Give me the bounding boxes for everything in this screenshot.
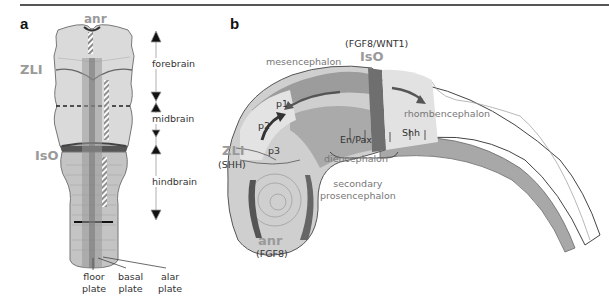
rhombencephalon-label: rhombencephalon bbox=[404, 108, 490, 119]
en-pax-marker-label: En/Pax bbox=[340, 134, 372, 145]
diencephalon-label: diencephalon bbox=[324, 153, 388, 164]
neural-tube-dorsal-view bbox=[54, 25, 166, 270]
iso-label-a: IsO bbox=[35, 148, 59, 163]
anr-label-a: anr bbox=[84, 12, 107, 26]
prosomere-p3: p3 bbox=[268, 145, 280, 156]
hindbrain-label: hindbrain bbox=[152, 176, 197, 187]
alar-plate-line1: alar bbox=[158, 271, 182, 283]
shh-marker-label: Shh bbox=[402, 127, 420, 138]
anr-genes-label: (FGF8) bbox=[256, 248, 288, 259]
prosomere-p1: p1 bbox=[276, 98, 288, 109]
basal-plate-label: basal plate bbox=[118, 271, 143, 295]
embryonic-brain-sagittal bbox=[228, 66, 600, 255]
midbrain-label: midbrain bbox=[152, 113, 194, 124]
zli-label-b: ZLI bbox=[222, 143, 245, 158]
forebrain-label: forebrain bbox=[152, 58, 195, 69]
anr-label-b: anr bbox=[258, 233, 282, 248]
floor-plate-label: floor plate bbox=[82, 271, 106, 295]
zli-genes-label: (SHH) bbox=[218, 159, 246, 170]
prosomere-p2: p2 bbox=[258, 120, 270, 131]
floor-plate-line2: plate bbox=[82, 283, 106, 295]
zli-label-a: ZLI bbox=[20, 62, 43, 77]
secondary-line2: prosencephalon bbox=[320, 190, 396, 202]
neural-tube-diagram bbox=[0, 0, 609, 297]
panel-b-letter: b bbox=[230, 15, 239, 32]
mesencephalon-label: mesencephalon bbox=[266, 56, 341, 67]
basal-plate-line1: basal bbox=[118, 271, 143, 283]
floor-plate-line1: floor bbox=[82, 271, 106, 283]
alar-plate-line2: plate bbox=[158, 283, 182, 295]
iso-genes-label: (FGF8/WNT1) bbox=[345, 38, 408, 49]
basal-plate-line2: plate bbox=[118, 283, 143, 295]
secondary-prosencephalon-label: secondary prosencephalon bbox=[320, 178, 396, 202]
secondary-line1: secondary bbox=[320, 178, 396, 190]
iso-label-b: IsO bbox=[360, 49, 384, 64]
alar-plate-label: alar plate bbox=[158, 271, 182, 295]
